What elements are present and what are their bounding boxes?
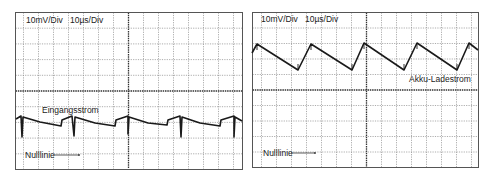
left-zero-dot <box>78 154 80 156</box>
right-time-per-div: 10µs/Div <box>305 14 339 24</box>
oscilloscope-figure: 10mV/Div 10µs/Div Eingangsstrom Nulllini… <box>0 0 496 177</box>
right-scope-panel: 10mV/Div 10µs/Div Akku-Ladestrom Nulllin… <box>252 13 479 168</box>
left-time-per-div: 10µs/Div <box>70 15 104 25</box>
left-scope-panel: 10mV/Div 10µs/Div Eingangsstrom Nulllini… <box>16 13 243 170</box>
right-zero-dot <box>314 152 316 154</box>
akku-ladestrom-trace <box>252 43 478 70</box>
left-zero-label: Nulllinie <box>25 150 55 160</box>
left-trace-label: Eingangsstrom <box>42 105 99 115</box>
right-volts-per-div: 10mV/Div <box>261 14 299 24</box>
eingangsstrom-trace <box>16 116 242 137</box>
right-zero-label: Nulllinie <box>263 148 293 158</box>
left-grid <box>16 13 243 170</box>
left-volts-per-div: 10mV/Div <box>26 15 64 25</box>
right-grid <box>253 13 479 168</box>
right-trace-label: Akku-Ladestrom <box>409 74 471 84</box>
